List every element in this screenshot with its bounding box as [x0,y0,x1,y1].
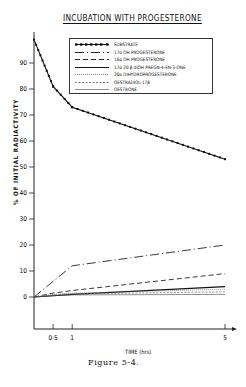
data-point-marker [33,39,35,41]
data-point-marker [187,146,189,148]
y-tick-label: 10 [20,267,28,275]
data-point-marker [52,85,54,87]
data-point-marker [140,130,142,132]
legend-swatch-dashed-icon [75,57,109,62]
legend-item-diol-pregnenone: 17α 20 β diOH PREGN-4-EN-3-ONE [70,64,212,71]
data-point-marker [182,144,184,146]
legend-item-oestradiol: OESTRADIOL-17β [70,79,212,86]
data-point-marker [208,153,210,155]
legend-item-20a-dihydroprogesterone: 20α DIHYDROPROGESTERONE [70,71,212,78]
y-tick-label: 70 [20,111,28,119]
legend-swatch-short-dashed-icon [75,80,109,85]
legend-label: SUBSTRATE [114,41,138,48]
data-point-marker [39,54,41,56]
y-tick-label: 80 [20,85,28,93]
legend-swatch-thin-solid-icon [75,87,109,92]
data-point-marker [192,147,194,149]
data-point-marker [108,119,110,121]
data-point-marker [145,131,147,133]
data-point-marker [56,90,58,92]
legend-item-substrate: SUBSTRATE [70,41,212,48]
data-point-marker [35,44,37,46]
x-tick-label: 1 [70,334,74,342]
legend-label: OESTRONE [114,86,137,93]
legend-item-17a-oh-progesterone: 17α OH PROGESTERONE [70,49,212,56]
data-point-marker [124,124,126,126]
chart-legend: SUBSTRATE 17α OH PROGESTERONE 16α OH PRO… [69,38,213,94]
data-point-marker [87,112,89,114]
data-point-marker [46,70,48,72]
legend-swatch-solid-icon [75,65,109,70]
legend-label: 17α 20 β diOH PREGN-4-EN-3-ONE [114,64,186,71]
data-point-marker [60,94,62,96]
x-axis-arrow-icon [232,327,237,331]
y-tick-label: 60 [20,137,28,145]
data-point-marker [150,133,152,135]
y-tick-label: 30 [20,215,28,223]
data-point-marker [177,142,179,144]
data-point-marker [71,106,73,108]
y-tick-label: 50 [20,163,28,171]
x-tick-label: 0·5 [48,334,58,342]
data-point-marker [82,110,84,112]
series-line [34,245,225,297]
data-point-marker [103,117,105,119]
data-point-marker [161,137,163,139]
data-point-marker [64,98,66,100]
legend-label: 17α OH PROGESTERONE [114,49,165,56]
data-point-marker [213,155,215,157]
data-point-marker [41,59,43,61]
x-tick-label: 5 [223,334,227,342]
data-point-marker [156,135,158,137]
data-point-marker [129,126,131,128]
y-tick-label: 40 [20,189,28,197]
data-point-marker [92,113,94,115]
legend-swatch-dotted-markers-icon [75,42,109,47]
data-point-marker [166,138,168,140]
legend-label: 16α OH PROGESTERONE [114,56,165,63]
data-point-marker [171,140,173,142]
data-point-marker [198,149,200,151]
legend-item-oestrone: OESTRONE [70,86,212,93]
data-point-marker [134,128,136,130]
data-point-marker [48,75,50,77]
data-point-marker [224,158,226,160]
data-point-marker [219,156,221,158]
data-point-marker [203,151,205,153]
legend-swatch-fine-dotted-icon [75,72,109,77]
legend-label: OESTRADIOL-17β [114,79,150,86]
legend-label: 20α DIHYDROPROGESTERONE [114,71,177,78]
legend-swatch-dash-dot-icon [75,50,109,55]
data-point-marker [119,122,121,124]
data-point-marker [37,49,39,51]
y-tick-label: 0 [23,293,27,301]
data-point-marker [113,121,115,123]
x-axis-label: TIME (hrs) [125,349,151,355]
legend-item-16a-oh-progesterone: 16α OH PROGESTERONE [70,56,212,63]
data-point-marker [50,80,52,82]
figure-caption: Figure 5-4. [88,358,140,367]
data-point-marker [76,108,78,110]
data-point-marker [44,65,46,67]
y-tick-label: 20 [20,241,28,249]
y-tick-label: 90 [20,59,28,67]
y-axis-label: % OF INITIAL RADIACTIVITY [12,99,19,205]
data-point-marker [67,102,69,104]
data-point-marker [98,115,100,117]
